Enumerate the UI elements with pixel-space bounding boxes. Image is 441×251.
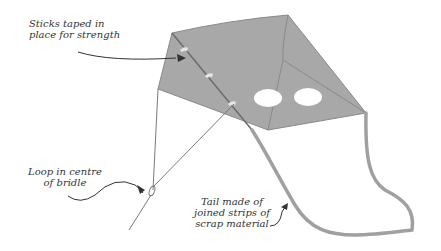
arrow-sticks (78, 52, 176, 59)
annotation-sticks: Sticks taped in place for strength (29, 18, 120, 40)
bridle-line (153, 104, 234, 187)
annotation-loop: Loop in centre of bridle (28, 166, 102, 188)
flying-line (129, 195, 151, 230)
kite-tail (252, 113, 413, 235)
eye-hole-right (294, 88, 322, 106)
bridle-loop (148, 185, 156, 196)
annotation-tail: Tail made of joined strips of scrap mate… (192, 196, 272, 229)
bridle-line (153, 89, 158, 190)
eye-hole-left (254, 89, 282, 107)
kite-sail (158, 15, 366, 130)
arrowhead-icon (281, 203, 288, 210)
arrowhead-icon (137, 185, 145, 194)
arrow-tail (270, 207, 285, 226)
